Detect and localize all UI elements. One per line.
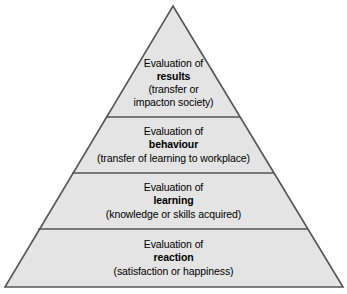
- tier-results-detail-2: impacton society): [134, 96, 214, 109]
- tier-reaction-keyword: reaction: [153, 251, 193, 264]
- tier-results-prefix: Evaluation of: [144, 57, 203, 70]
- tier-behaviour-keyword: behaviour: [149, 138, 198, 151]
- tier-reaction-detail-1: (satisfaction or happiness): [114, 265, 234, 278]
- evaluation-pyramid-figure: Evaluation of results (transfer or impac…: [0, 0, 347, 294]
- tier-behaviour-detail-1: (transfer of learning to workplace): [97, 152, 250, 165]
- pyramid-tier-learning[interactable]: Evaluation of learning (knowledge or ski…: [0, 176, 347, 226]
- tier-learning-detail-1: (knowledge or skills acquired): [106, 208, 241, 221]
- pyramid-tier-behaviour[interactable]: Evaluation of behaviour (transfer of lea…: [0, 120, 347, 170]
- tier-reaction-prefix: Evaluation of: [144, 238, 203, 251]
- pyramid-tier-results[interactable]: Evaluation of results (transfer or impac…: [0, 52, 347, 114]
- tier-behaviour-prefix: Evaluation of: [144, 125, 203, 138]
- tier-learning-prefix: Evaluation of: [144, 181, 203, 194]
- pyramid-tier-reaction[interactable]: Evaluation of reaction (satisfaction or …: [0, 232, 347, 284]
- tier-results-detail-1: (transfer or: [148, 83, 198, 96]
- tier-results-keyword: results: [157, 70, 191, 83]
- tier-learning-keyword: learning: [153, 194, 193, 207]
